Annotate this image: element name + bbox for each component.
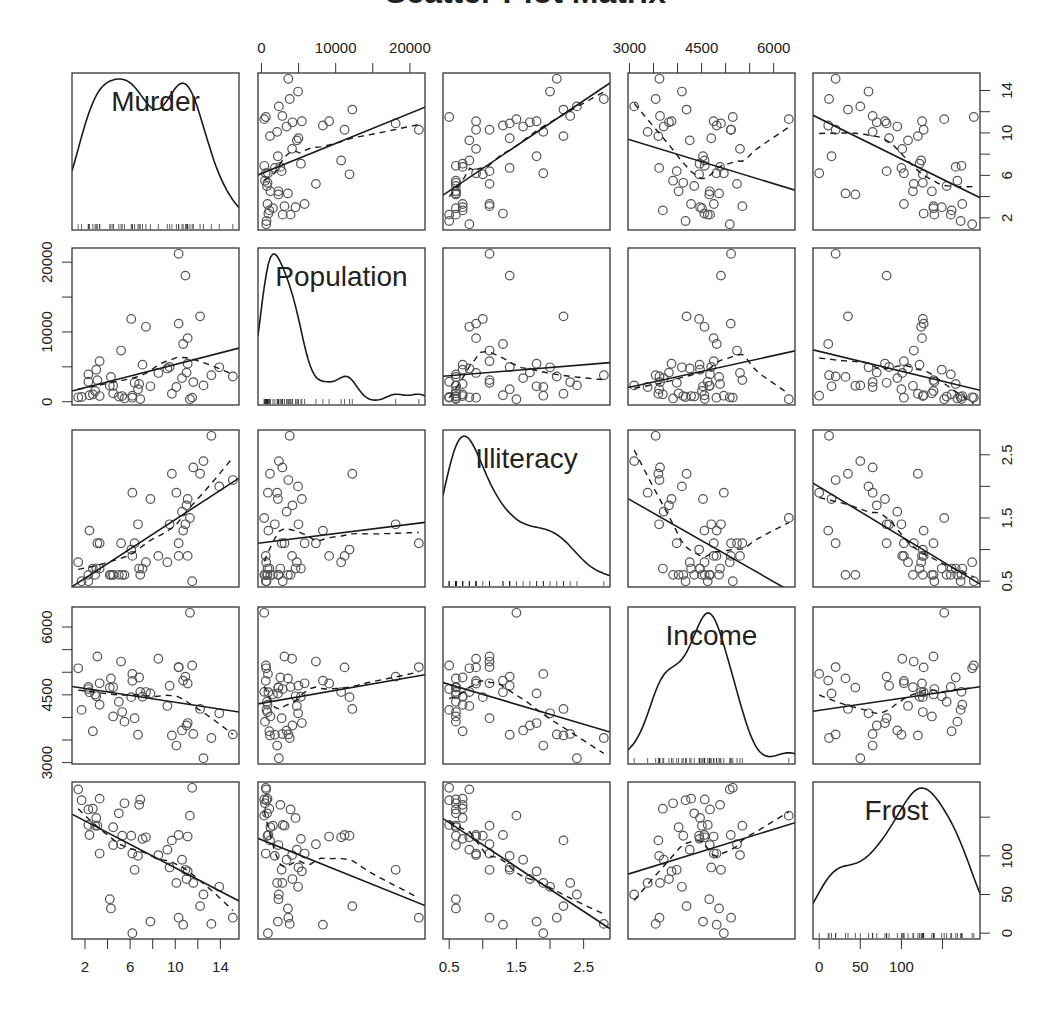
data-point [679,831,688,840]
data-point [566,879,575,888]
data-point [600,95,609,104]
data-point [715,571,724,580]
data-point [128,929,137,938]
data-point [266,469,275,478]
data-point [717,520,726,529]
data-point [262,113,271,122]
data-point [199,457,208,466]
svg-text:6000: 6000 [757,39,790,56]
data-point [856,457,865,466]
data-point [785,395,794,404]
data-point [726,319,735,328]
data-point [559,705,568,714]
data-point [319,121,328,130]
data-point [720,929,729,938]
svg-text:100: 100 [889,958,914,975]
data-point [207,432,216,441]
data-point [275,102,284,111]
data-point [95,357,104,366]
data-point [827,152,836,161]
data-point [929,204,938,213]
data-point [856,754,865,763]
data-point [189,730,198,739]
data-point [851,571,860,580]
data-point [288,721,297,730]
panel-frost-vs-murder [72,782,239,939]
chart-title: Scatter Plot Matrix [0,0,1051,11]
data-point [186,609,195,618]
data-point [118,708,127,717]
data-point [485,357,494,366]
data-point [340,125,349,134]
data-point [919,209,928,218]
svg-text:14: 14 [212,958,229,975]
svg-text:1.5: 1.5 [998,508,1015,529]
data-point [298,117,307,126]
data-point [273,741,282,750]
data-point [851,381,860,390]
data-point [472,125,481,134]
data-point [914,132,923,141]
data-point [736,145,745,154]
data-point [505,164,514,173]
panel-frame [72,782,239,939]
variable-label: Income [666,620,758,651]
data-point [472,654,481,663]
data-point [707,520,716,529]
svg-text:6: 6 [998,171,1015,179]
data-point [669,799,678,808]
data-point [915,360,924,369]
data-point [654,469,663,478]
data-point [505,672,514,681]
panel-illiteracy-vs-population [258,430,425,587]
data-point [345,831,354,840]
panel-illiteracy-vs-frost [813,430,980,587]
svg-text:100: 100 [998,843,1015,868]
data-point [485,913,494,922]
bottom-axis-murder: 261014 [81,939,229,975]
data-point [655,164,664,173]
plot-area: MurderPopulationIlliteracyIncomeFrost010… [0,0,1051,1009]
panel-frost-vs-illiteracy [443,782,610,939]
data-point [179,920,188,929]
data-point [168,836,177,845]
data-point [665,875,674,884]
data-point [917,156,926,165]
data-point [179,340,188,349]
data-point [183,832,192,841]
data-point [415,539,424,548]
data-point [929,202,938,211]
data-point [109,823,118,832]
data-point [738,202,747,211]
data-point [937,564,946,573]
panel-frost-vs-population [258,782,425,939]
panel-frame [443,607,610,764]
svg-text:2: 2 [998,214,1015,222]
data-point [189,378,198,387]
data-point [172,741,181,750]
data-point [472,145,481,154]
linear-fit-line [443,83,610,195]
data-point [659,206,668,215]
left-axis-population: 01000020000 [38,241,72,406]
data-point [868,383,877,392]
right-axis-illiteracy: 0.51.52.5 [980,444,1015,591]
data-point [841,373,850,382]
data-point [918,334,927,343]
data-point [815,488,824,497]
panel-population-vs-income [628,248,795,405]
data-point [904,558,913,567]
data-point [278,112,287,121]
data-point [630,457,639,466]
data-point [325,117,334,126]
data-point [261,849,270,858]
data-point [909,683,918,692]
data-point [199,890,208,899]
data-point [174,319,183,328]
data-point [868,488,877,497]
data-point [229,730,238,739]
data-point [291,814,300,823]
data-point [319,920,328,929]
svg-text:1.5: 1.5 [506,958,527,975]
data-point [174,539,183,548]
